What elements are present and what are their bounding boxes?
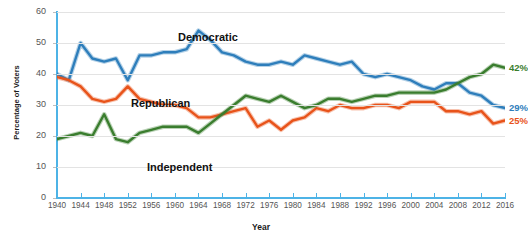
grid-line [57, 167, 505, 168]
y-tick-label: 30 [22, 99, 46, 109]
y-tick-label: 10 [22, 161, 46, 171]
y-tick-label: 60 [22, 6, 46, 16]
grid-line [57, 43, 505, 44]
grid-line [57, 12, 505, 13]
y-axis-title: Percentage of Voters [12, 43, 21, 163]
end-label-independent: 42% [509, 62, 528, 73]
cropped-title-remnant [0, 0, 522, 9]
grid-line [57, 74, 505, 75]
plot-area [57, 12, 505, 198]
x-axis-title: Year [0, 222, 522, 232]
end-label-democratic: 29% [509, 102, 528, 113]
x-tick-label: 2016 [490, 201, 520, 210]
y-tick-label: 50 [22, 37, 46, 47]
series-line-republican[interactable] [57, 77, 505, 130]
grid-line [57, 136, 505, 137]
series-label-independent: Independent [147, 161, 212, 173]
series-label-republican: Republican [131, 97, 190, 109]
y-tick-label: 40 [22, 68, 46, 78]
grid-line [57, 105, 505, 106]
series-label-democratic: Democratic [178, 31, 238, 43]
y-tick-label: 20 [22, 130, 46, 140]
end-label-republican: 25% [509, 115, 528, 126]
